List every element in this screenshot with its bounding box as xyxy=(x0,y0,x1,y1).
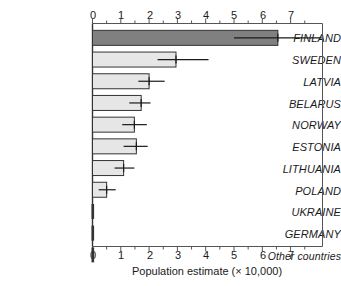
plot-area xyxy=(0,0,341,286)
bar-chart: FINLAND SWEDEN LATVIA BELARUS NORWAY EST… xyxy=(0,0,341,286)
bar-other-countries[interactable] xyxy=(92,247,95,262)
bar-germany[interactable] xyxy=(92,226,95,241)
bar-ukraine[interactable] xyxy=(92,204,95,219)
